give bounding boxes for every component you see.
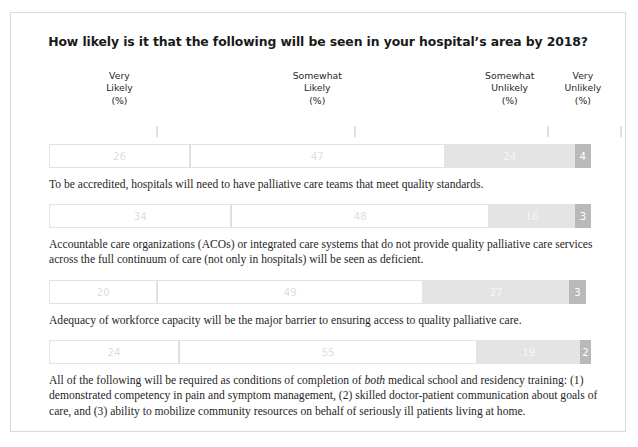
bar-segment-very-unlikely: 4 xyxy=(575,144,591,168)
header-line-1: Very xyxy=(106,70,133,82)
header-line-2: Likely xyxy=(293,82,342,94)
bar-row: 20 49 27 3 xyxy=(49,280,591,304)
header-line-2: Unlikely xyxy=(485,82,534,94)
statement-text: All of the following will be required as… xyxy=(49,373,605,419)
bar-row: 24 55 19 2 xyxy=(49,340,591,364)
statement-emphasis: both xyxy=(365,374,386,387)
bar-segment-somewhat-unlikely: 19 xyxy=(477,340,580,364)
column-header-very-unlikely: Very Unlikely (%) xyxy=(564,70,601,107)
bar-segment-very-unlikely: 2 xyxy=(580,340,591,364)
bar-segment-somewhat-unlikely: 24 xyxy=(445,144,575,168)
header-line-2: Likely xyxy=(106,82,133,94)
bar-segment-somewhat-likely: 55 xyxy=(179,340,477,364)
statement-pre: Adequacy of workforce capacity will be t… xyxy=(49,314,522,327)
column-header-group: Very Likely (%) Somewhat Likely (%) Some… xyxy=(49,70,591,132)
header-tick-very-unlikely xyxy=(620,126,621,137)
bar-segment-very-unlikely: 3 xyxy=(575,204,591,228)
header-line-2: Unlikely xyxy=(564,82,601,94)
bar-row: 26 47 24 4 xyxy=(49,144,591,168)
figure-frame: How likely is it that the following will… xyxy=(10,12,626,432)
bar-segment-somewhat-likely: 49 xyxy=(157,280,423,304)
bar-segment-somewhat-likely: 47 xyxy=(190,144,445,168)
header-tick-very-likely xyxy=(157,126,158,137)
header-line-3: (%) xyxy=(293,95,342,107)
bar-segment-somewhat-unlikely: 27 xyxy=(423,280,569,304)
column-header-very-likely: Very Likely (%) xyxy=(106,70,133,107)
bar-segment-very-likely: 20 xyxy=(49,280,157,304)
statement-text: Accountable care organizations (ACOs) or… xyxy=(49,237,605,268)
header-tick-somewhat-likely xyxy=(355,126,356,137)
header-line-3: (%) xyxy=(106,95,133,107)
header-tick-somewhat-unlikely xyxy=(547,126,548,137)
bar-segment-very-likely: 26 xyxy=(49,144,190,168)
bar-segment-very-likely: 24 xyxy=(49,340,179,364)
statement-pre: To be accredited, hospitals will need to… xyxy=(49,178,483,191)
header-line-3: (%) xyxy=(564,95,601,107)
bar-segment-very-likely: 34 xyxy=(49,204,231,228)
header-line-1: Very xyxy=(564,70,601,82)
bar-segment-very-unlikely: 3 xyxy=(569,280,585,304)
header-line-3: (%) xyxy=(485,95,534,107)
statement-text: Adequacy of workforce capacity will be t… xyxy=(49,313,605,328)
bar-segment-somewhat-likely: 48 xyxy=(231,204,489,228)
header-line-1: Somewhat xyxy=(293,70,342,82)
column-header-somewhat-unlikely: Somewhat Unlikely (%) xyxy=(485,70,534,107)
statement-pre: Accountable care organizations (ACOs) or… xyxy=(49,238,593,266)
bar-row: 34 48 16 3 xyxy=(49,204,591,228)
statement-text: To be accredited, hospitals will need to… xyxy=(49,177,605,192)
column-header-somewhat-likely: Somewhat Likely (%) xyxy=(293,70,342,107)
statement-pre: All of the following will be required as… xyxy=(49,374,365,387)
chart-title: How likely is it that the following will… xyxy=(11,34,625,49)
bar-segment-somewhat-unlikely: 16 xyxy=(489,204,575,228)
header-line-1: Somewhat xyxy=(485,70,534,82)
